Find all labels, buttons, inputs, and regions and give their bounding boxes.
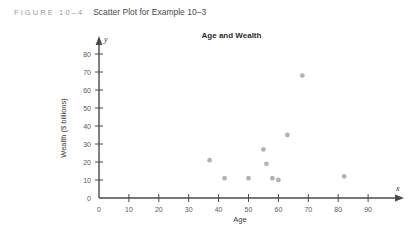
- y-tick-label: 60: [83, 87, 91, 94]
- y-axis-arrowhead: [96, 36, 103, 45]
- x-tick-label: 40: [215, 206, 223, 213]
- y-tick-label: 80: [83, 51, 91, 58]
- x-tick-label: 30: [185, 206, 193, 213]
- data-point: [207, 158, 212, 163]
- x-axis-arrowhead: [395, 195, 404, 202]
- data-points: [207, 73, 346, 182]
- x-axis-label: Age: [233, 215, 246, 224]
- data-point: [261, 147, 266, 152]
- data-point: [285, 133, 290, 138]
- y-tick-label: 0: [87, 195, 91, 202]
- x-tick-label: 60: [275, 206, 283, 213]
- x-tick-label: 0: [97, 206, 101, 213]
- y-tick-label: 40: [83, 123, 91, 130]
- x-tick-label: 20: [155, 206, 163, 213]
- x-tick-label: 70: [304, 206, 312, 213]
- y-tick-label: 50: [83, 105, 91, 112]
- data-point: [270, 176, 275, 181]
- x-tick-label: 80: [334, 206, 342, 213]
- y-tick-label: 10: [83, 177, 91, 184]
- x-tick-label: 50: [245, 206, 253, 213]
- x-tick-label: 90: [364, 206, 372, 213]
- data-point: [276, 178, 281, 183]
- data-point: [342, 174, 347, 179]
- x-tick-label: 10: [125, 206, 133, 213]
- x-axis-ticks: 0102030405060708090: [97, 194, 372, 213]
- y-axis-ticks: 01020304050607080: [83, 51, 103, 202]
- plot-canvas: 01020304050607080 0102030405060708090 y …: [0, 0, 417, 240]
- y-tick-label: 70: [83, 69, 91, 76]
- data-point: [222, 176, 227, 181]
- data-point: [300, 73, 305, 78]
- scatter-chart: Age and Wealth 01020304050607080 0102030…: [0, 0, 417, 240]
- y-tick-label: 30: [83, 141, 91, 148]
- y-axis-variable: y: [103, 35, 108, 44]
- y-tick-label: 20: [83, 159, 91, 166]
- data-point: [264, 161, 269, 166]
- x-axis-variable: x: [395, 184, 400, 193]
- y-axis-label: Wealth ($ billions): [59, 98, 68, 158]
- data-point: [246, 176, 251, 181]
